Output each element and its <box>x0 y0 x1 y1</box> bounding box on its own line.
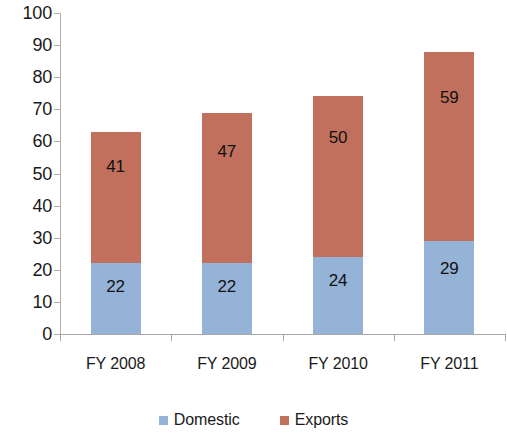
chart-legend: DomesticExports <box>0 408 507 432</box>
y-axis-tick-label: 50 <box>0 165 52 183</box>
y-axis-tick-label: 10 <box>0 293 52 311</box>
legend-swatch-icon <box>159 416 168 425</box>
y-axis-tick-mark <box>54 238 61 239</box>
x-axis-tick-mark <box>171 334 172 341</box>
y-axis-tick-label: 30 <box>0 229 52 247</box>
y-axis-tick-mark <box>54 206 61 207</box>
x-axis-tick-mark <box>394 334 395 341</box>
bar-segment-exports[interactable]: 50 <box>313 96 363 257</box>
y-axis-tick-label: 40 <box>0 197 52 215</box>
bar-segment-domestic[interactable]: 22 <box>202 263 252 334</box>
bar-value-label: 24 <box>313 272 363 289</box>
y-axis-tick-label: 0 <box>0 325 52 343</box>
bar-group[interactable]: 2959 <box>424 13 474 334</box>
x-axis-line <box>56 334 505 335</box>
x-axis-tick-mark <box>505 334 506 341</box>
y-axis-tick-label: 100 <box>0 4 52 22</box>
bar-segment-exports[interactable]: 47 <box>202 113 252 264</box>
y-axis-tick-label: 20 <box>0 261 52 279</box>
y-axis-tick-mark <box>54 270 61 271</box>
bar-segment-domestic[interactable]: 24 <box>313 257 363 334</box>
y-axis-tick-label: 90 <box>0 36 52 54</box>
bar-value-label: 22 <box>202 278 252 295</box>
bar-segment-domestic[interactable]: 29 <box>424 241 474 334</box>
legend-item[interactable]: Domestic <box>159 411 240 429</box>
y-axis-tick-mark <box>54 77 61 78</box>
stacked-column-chart: 0102030405060708090100 FY 2008FY 2009FY … <box>0 0 507 440</box>
bar-group[interactable]: 2450 <box>313 13 363 334</box>
y-axis-tick-mark <box>54 174 61 175</box>
bar-segment-domestic[interactable]: 22 <box>91 263 141 334</box>
bar-segment-exports[interactable]: 59 <box>424 52 474 241</box>
legend-label: Exports <box>295 411 349 429</box>
bar-value-label: 47 <box>202 143 252 160</box>
legend-item[interactable]: Exports <box>280 411 349 429</box>
bar-segment-exports[interactable]: 41 <box>91 132 141 264</box>
y-axis-tick-mark <box>54 45 61 46</box>
x-axis-tick-mark <box>60 334 61 341</box>
x-axis-category-label: FY 2009 <box>171 355 282 373</box>
bar-value-label: 50 <box>313 129 363 146</box>
x-axis-category-label: FY 2008 <box>60 355 171 373</box>
y-axis-labels: 0102030405060708090100 <box>0 0 52 440</box>
bar-group[interactable]: 2247 <box>202 13 252 334</box>
bar-value-label: 29 <box>424 260 474 277</box>
legend-label: Domestic <box>174 411 240 429</box>
x-axis-category-label: FY 2011 <box>394 355 505 373</box>
y-axis-tick-mark <box>54 302 61 303</box>
x-axis-tick-mark <box>283 334 284 341</box>
plot-area: 2241224724502959 <box>60 13 505 334</box>
bar-value-label: 59 <box>424 89 474 106</box>
x-axis-category-label: FY 2010 <box>283 355 394 373</box>
y-axis-tick-label: 70 <box>0 100 52 118</box>
y-axis-tick-mark <box>54 13 61 14</box>
y-axis-tick-label: 60 <box>0 132 52 150</box>
legend-swatch-icon <box>280 416 289 425</box>
bar-value-label: 22 <box>91 278 141 295</box>
y-axis-tick-label: 80 <box>0 68 52 86</box>
y-axis-tick-mark <box>54 109 61 110</box>
bar-value-label: 41 <box>91 158 141 175</box>
bar-group[interactable]: 2241 <box>91 13 141 334</box>
y-axis-tick-mark <box>54 141 61 142</box>
